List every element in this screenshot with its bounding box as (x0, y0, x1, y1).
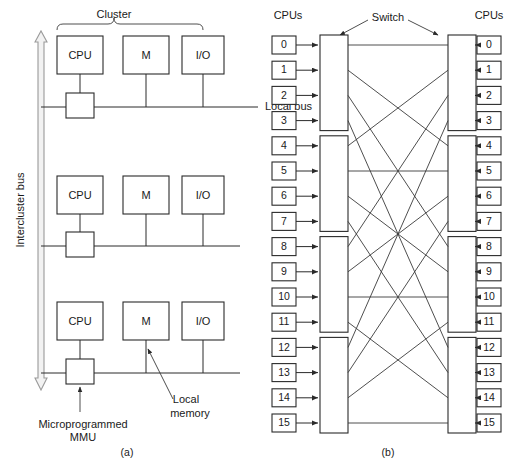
left-cpu-label-4: 4 (281, 139, 287, 151)
local-memory-label-line2: memory (170, 407, 210, 419)
right-cpu-label-2: 2 (486, 89, 492, 101)
right-cpus-header: CPUs (475, 9, 504, 21)
panel-b: CPUs CPUs Switch 00112233445566778899101… (272, 9, 504, 458)
right-cpu-label-13: 13 (483, 366, 495, 378)
cluster-3-mmu-box (66, 359, 94, 384)
right-cpu-label-5: 5 (486, 164, 492, 176)
cluster-2-mmu-box (66, 232, 94, 257)
left-cpu-label-11: 11 (279, 315, 290, 327)
switch-stage1-3[interactable] (320, 337, 348, 433)
local-memory-annotation (148, 349, 173, 399)
cluster-label: Cluster (97, 8, 132, 20)
cluster-3-cpu-label: CPU (68, 315, 91, 327)
left-cpu-label-0: 0 (281, 38, 287, 50)
mmu-label-line1: Microprogrammed (38, 418, 127, 430)
right-cpu-label-0: 0 (486, 38, 492, 50)
left-cpu-label-1: 1 (281, 63, 287, 75)
intercluster-bus-label: Intercluster bus (14, 172, 26, 248)
left-cpu-label-10: 10 (278, 290, 290, 302)
panel-b-caption: (b) (382, 446, 395, 458)
switch-stage2-1[interactable] (448, 136, 476, 232)
right-cpu-label-10: 10 (483, 290, 495, 302)
panel-a: Intercluster bus Cluster CPU M I/O (14, 8, 313, 458)
left-cpu-label-14: 14 (278, 391, 290, 403)
left-cpu-label-6: 6 (281, 189, 287, 201)
switch-stage2-2[interactable] (448, 237, 476, 333)
intercluster-bus (35, 31, 47, 390)
right-cpu-label-8: 8 (486, 240, 492, 252)
right-cpu-label-7: 7 (486, 215, 492, 227)
right-cpu-label-15: 15 (483, 416, 495, 428)
left-cpus-header: CPUs (274, 9, 303, 21)
right-cpu-label-4: 4 (486, 139, 492, 151)
left-cpu-label-2: 2 (281, 89, 287, 101)
cluster-1-memory-label: M (141, 49, 150, 61)
switch-label: Switch (372, 11, 404, 23)
left-cpu-label-5: 5 (281, 164, 287, 176)
switch-stage1-2[interactable] (320, 237, 348, 333)
cluster-2: CPU M I/O (41, 176, 240, 257)
local-memory-label-line1: Local (173, 393, 199, 405)
right-cpu-label-12: 12 (483, 341, 495, 353)
left-cpu-label-8: 8 (281, 240, 287, 252)
switch-stage1-0[interactable] (320, 35, 348, 131)
cluster-3-memory-label: M (141, 315, 150, 327)
cluster-1: CPU M I/O (41, 36, 258, 118)
cluster-2-memory-label: M (141, 189, 150, 201)
cluster-2-cpu-label: CPU (68, 189, 91, 201)
panel-a-caption: (a) (121, 446, 134, 458)
switch-stage2-3[interactable] (448, 337, 476, 433)
right-cpu-label-11: 11 (484, 315, 495, 327)
cluster-3: CPU M I/O (41, 302, 240, 384)
mmu-label-line2: MMU (70, 431, 96, 443)
right-cpu-label-6: 6 (486, 189, 492, 201)
left-cpu-label-3: 3 (281, 114, 287, 126)
left-cpu-label-13: 13 (278, 366, 290, 378)
figure-root: Intercluster bus Cluster CPU M I/O (0, 0, 511, 463)
left-cpu-label-7: 7 (281, 215, 287, 227)
right-cpu-label-14: 14 (483, 391, 495, 403)
switch-stage1-1[interactable] (320, 136, 348, 232)
cluster-1-cpu-label: CPU (68, 49, 91, 61)
right-cpu-label-1: 1 (486, 63, 492, 75)
cluster-3-io-label: I/O (196, 315, 211, 327)
right-cpu-label-3: 3 (486, 114, 492, 126)
left-cpu-label-15: 15 (278, 416, 290, 428)
cluster-1-mmu-box (66, 93, 94, 118)
left-cpu-label-12: 12 (278, 341, 290, 353)
cluster-1-io-label: I/O (196, 49, 211, 61)
right-cpu-label-9: 9 (486, 265, 492, 277)
left-cpu-label-9: 9 (281, 265, 287, 277)
cluster-2-io-label: I/O (196, 189, 211, 201)
architecture-figure: Intercluster bus Cluster CPU M I/O (0, 0, 511, 463)
switch-stage2-0[interactable] (448, 35, 476, 131)
